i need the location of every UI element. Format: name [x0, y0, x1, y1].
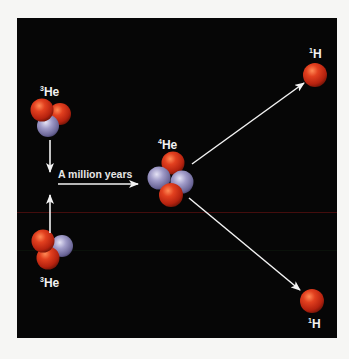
- he3-top-nucleus: [31, 99, 72, 138]
- h1-top-label: 1H: [309, 48, 322, 60]
- h1-bottom-label: 1H: [308, 318, 321, 330]
- he3-bottom-label: 3He: [40, 277, 59, 289]
- he4-nucleus: [148, 152, 194, 208]
- diagonal-up-arrow-icon: [192, 83, 304, 164]
- mass-number: 1: [309, 47, 313, 54]
- proton-icon: [32, 230, 55, 253]
- element-symbol: He: [44, 85, 59, 99]
- element-symbol: He: [162, 138, 177, 152]
- element-symbol: H: [312, 317, 321, 331]
- mass-number: 4: [158, 138, 162, 145]
- reaction-diagram: [0, 0, 349, 359]
- diagonal-down-arrow-icon: [189, 198, 300, 290]
- h1-bottom-proton-icon: [300, 289, 324, 313]
- mass-number: 3: [40, 276, 44, 283]
- element-symbol: H: [313, 47, 322, 61]
- he4-label: 4He: [158, 139, 177, 151]
- proton-icon: [159, 183, 183, 207]
- time-caption: A million years: [58, 169, 132, 180]
- h1-top-proton-icon: [303, 63, 327, 87]
- he3-top-label: 3He: [40, 86, 59, 98]
- he3-bottom-nucleus: [32, 230, 74, 270]
- proton-icon: [31, 99, 54, 122]
- mass-number: 3: [40, 85, 44, 92]
- element-symbol: He: [44, 276, 59, 290]
- mass-number: 1: [308, 317, 312, 324]
